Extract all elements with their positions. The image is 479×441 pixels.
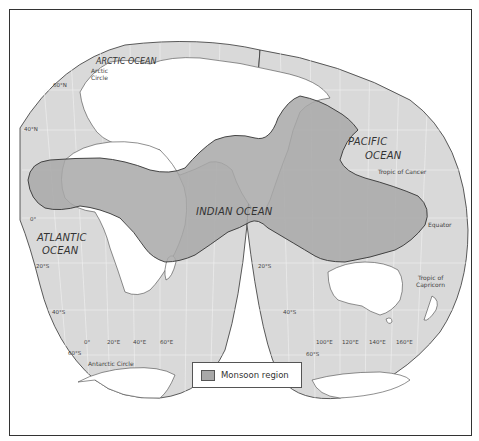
label-tropic-of-capricorn-line2: Capricorn (416, 282, 445, 288)
lon-40e: 40°E (133, 340, 146, 346)
label-atlantic-ocean-line1: ATLANTIC (37, 233, 87, 243)
label-tropic-of-cancer: Tropic of Cancer (378, 169, 426, 175)
lat-0: 0° (30, 217, 36, 223)
map-legend: Monsoon region (192, 362, 302, 388)
lon-140e: 140°E (369, 340, 386, 346)
lat-40s-left: 40°S (52, 310, 65, 316)
lat-60n: 60°N (53, 83, 67, 89)
lat-60s-right: 60°S (306, 352, 319, 358)
lon-120e: 120°E (342, 340, 359, 346)
label-equator: Equator (428, 222, 452, 228)
lat-20s-right: 20°S (258, 264, 271, 270)
label-arctic-circle-line2: Circle (91, 75, 108, 81)
legend-label-monsoon: Monsoon region (221, 370, 289, 380)
lon-60e: 60°E (160, 340, 173, 346)
label-indian-ocean: INDIAN OCEAN (196, 207, 272, 217)
monsoon-swatch (201, 370, 215, 381)
lon-0: 0° (84, 340, 90, 346)
label-antarctic-circle: Antarctic Circle (88, 361, 134, 367)
lat-40s-right: 40°S (283, 310, 296, 316)
lat-40n: 40°N (24, 127, 38, 133)
lon-160e: 160°E (396, 340, 413, 346)
lat-20s-left: 20°S (36, 264, 49, 270)
lat-60s-left: 60°S (68, 351, 81, 357)
label-pacific-ocean-line1: PACIFIC (348, 137, 387, 147)
label-atlantic-ocean-line2: OCEAN (42, 246, 79, 256)
label-pacific-ocean-line2: OCEAN (365, 151, 402, 161)
lon-20e: 20°E (107, 340, 120, 346)
lon-100e: 100°E (316, 340, 333, 346)
label-arctic-ocean: ARCTIC OCEAN (96, 58, 156, 66)
